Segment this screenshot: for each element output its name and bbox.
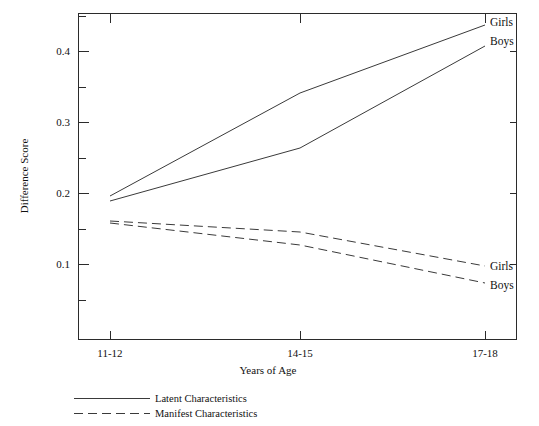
x-tick-label-17-18: 17-18 <box>472 347 498 359</box>
y-axis-tick-labels: 0.4 0.3 0.2 0.1 <box>56 45 70 270</box>
right-axis-ticks <box>510 52 517 265</box>
y-axis-title-group: Difference Score <box>18 139 30 214</box>
y-tick-label-0-4: 0.4 <box>56 45 70 57</box>
series-line-latent-boys <box>110 46 485 201</box>
y-tick-label-0-2: 0.2 <box>56 187 70 199</box>
endpoint-label-manifest-boys: Boys <box>490 279 514 292</box>
x-tick-label-14-15: 14-15 <box>287 347 313 359</box>
endpoint-label-latent-girls: Girls <box>490 16 514 28</box>
x-axis-title: Years of Age <box>240 364 297 376</box>
y-tick-label-0-3: 0.3 <box>56 116 70 128</box>
x-tick-label-11-12: 11-12 <box>97 347 122 359</box>
series-line-manifest-girls <box>110 221 485 266</box>
y-axis-minor-ticks <box>79 17 86 301</box>
endpoint-annotations: Girls Boys Girls Boys <box>490 16 514 292</box>
line-chart-svg: 0.4 0.3 0.2 0.1 Difference Score 11-12 1… <box>0 0 539 426</box>
y-tick-label-0-1: 0.1 <box>56 258 70 270</box>
legend-label-latent: Latent Characteristics <box>155 393 247 404</box>
y-axis-title: Difference Score <box>18 139 30 214</box>
endpoint-label-manifest-girls: Girls <box>490 260 514 272</box>
endpoint-label-latent-boys: Boys <box>490 35 514 48</box>
x-axis-tick-labels: 11-12 14-15 17-18 <box>97 347 498 359</box>
plot-frame <box>79 14 517 340</box>
chart-legend: Latent Characteristics Manifest Characte… <box>74 393 257 419</box>
series-line-latent-girls <box>110 25 485 196</box>
x-axis-ticks <box>111 14 486 340</box>
chart-figure: 0.4 0.3 0.2 0.1 Difference Score 11-12 1… <box>0 0 539 426</box>
legend-label-manifest: Manifest Characteristics <box>155 408 257 419</box>
